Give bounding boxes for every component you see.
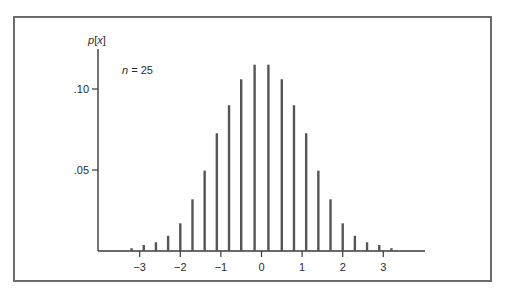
x-tick-label: 1: [299, 261, 305, 273]
y-axis-label: p[x]: [87, 34, 106, 46]
x-tick-label: 2: [340, 261, 346, 273]
x-tick-label: 0: [258, 261, 264, 273]
x-ticks: −3−2−10123: [133, 251, 386, 273]
n-annotation: n = 25: [122, 64, 153, 76]
y-tick-label: .05: [74, 164, 89, 176]
x-tick-label: −1: [215, 261, 228, 273]
bars: [132, 65, 392, 251]
y-ticks: .05.10: [74, 83, 98, 176]
y-tick-label: .10: [74, 83, 89, 95]
x-tick-label: −2: [174, 261, 187, 273]
x-tick-label: 3: [380, 261, 386, 273]
x-tick-label: −3: [133, 261, 146, 273]
chart-plot: p[x] n = 25 .05.10 −3−2−10123: [0, 0, 508, 296]
